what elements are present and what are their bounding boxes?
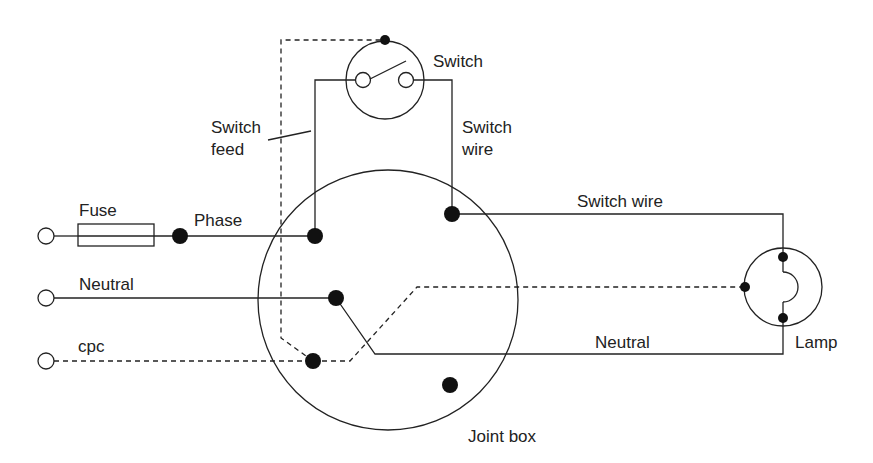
label-joint-box: Joint box: [468, 427, 537, 446]
label-switch: Switch: [433, 52, 483, 71]
label-lamp: Lamp: [795, 333, 838, 352]
label-switch-wire-2: wire: [461, 140, 493, 159]
switch-wire-vertical: [414, 80, 452, 214]
lamp-earth-terminal: [740, 282, 750, 292]
neutral-lamp-wire: [336, 298, 783, 354]
switch-contact-right: [399, 73, 414, 88]
wiring-diagram: Switch Switch feed Switch wire Switch wi…: [0, 0, 873, 463]
label-switch-feed-1: Switch: [211, 118, 261, 137]
switch-wire-to-lamp: [452, 214, 783, 257]
label-cpc: cpc: [78, 337, 105, 356]
label-fuse: Fuse: [79, 201, 117, 220]
joint-box-outline: [258, 170, 518, 430]
label-neutral-supply: Neutral: [79, 275, 134, 294]
supply-cpc-terminal: [38, 353, 54, 369]
cpc-switch-wire: [281, 40, 385, 361]
label-switch-feed-2: feed: [211, 140, 244, 159]
switch-feed-pointer: [268, 131, 311, 140]
lamp-terminal-top: [778, 252, 788, 262]
lamp-terminal-bottom: [778, 313, 788, 323]
joint-box-terminal-cpc: [305, 353, 321, 369]
fuse: [78, 224, 154, 246]
switch-feed-wire: [315, 80, 355, 236]
supply-phase-terminal: [38, 228, 54, 244]
label-neutral-lamp: Neutral: [595, 333, 650, 352]
supply-neutral-terminal: [38, 290, 54, 306]
joint-box-terminal-neutral: [328, 290, 344, 306]
lamp-filament: [783, 272, 798, 302]
joint-box-terminal-spare: [442, 377, 458, 393]
switch-contact-left: [356, 73, 371, 88]
joint-box-terminal-switch-wire: [444, 206, 460, 222]
label-switch-wire-horizontal: Switch wire: [577, 192, 663, 211]
label-phase: Phase: [194, 211, 242, 230]
joint-box-terminal-phase: [307, 228, 323, 244]
phase-connector: [172, 228, 188, 244]
cpc-lamp-wire: [313, 287, 745, 361]
label-switch-wire-1: Switch: [462, 118, 512, 137]
